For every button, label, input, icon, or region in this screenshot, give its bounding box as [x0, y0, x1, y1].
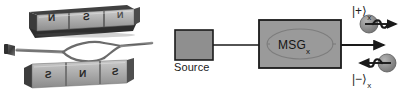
schematic-panel: MSGx Source |+⟩x |−⟩x — [160, 0, 419, 94]
msg-block-label: MSGx — [278, 38, 310, 54]
photo-panel: N S N S N S — [0, 0, 160, 94]
fiber-connector-ferrule — [7, 44, 15, 56]
output-minus-x-label: |−⟩x — [352, 73, 371, 88]
output-plus-x-label: |+⟩x — [352, 5, 371, 20]
fiber-output-lead — [121, 43, 152, 46]
output-minus-x-subscript: x — [367, 81, 371, 90]
fiber-recombine-lower — [104, 46, 121, 58]
fiber-interferometer — [4, 42, 152, 61]
source-block-label: Source — [174, 62, 209, 73]
bottom-magnet-left-cap — [24, 64, 32, 88]
photo-graphics — [0, 0, 160, 94]
output-minus-x-symbol — [360, 54, 396, 72]
bottom-magnet-pole-label-2: N — [79, 69, 86, 79]
top-magnet-shadow — [35, 32, 135, 37]
bottom-magnet-right-cap — [127, 58, 134, 83]
output-plus-x-ket: |+⟩ — [352, 4, 367, 18]
top-magnet-pole-label-2: S — [83, 12, 90, 22]
top-magnet-pole-label-3: N — [117, 11, 124, 20]
fiber-connector-endcap — [4, 44, 8, 54]
fiber-recombine-upper — [104, 43, 121, 46]
output-minus-x-ket: |−⟩ — [352, 72, 367, 86]
bottom-magnet-pole-label-1: S — [45, 70, 52, 80]
fiber-input-lead — [17, 50, 63, 52]
msg-block-label-subscript: x — [306, 47, 310, 56]
msg-block-label-text: MSG — [278, 38, 306, 52]
top-magnet-pole-label-1: N — [48, 13, 55, 23]
fiber-upper-arm — [63, 42, 104, 52]
bottom-magnet-pole-label-3: S — [112, 67, 119, 77]
output-plus-x-subscript: x — [367, 13, 371, 22]
top-magnet-left-cap — [29, 12, 37, 31]
top-magnet-right-cap — [134, 7, 140, 25]
source-block[interactable] — [175, 30, 213, 60]
figure-root: N S N S N S — [0, 0, 419, 94]
fiber-lower-arm — [63, 52, 104, 61]
